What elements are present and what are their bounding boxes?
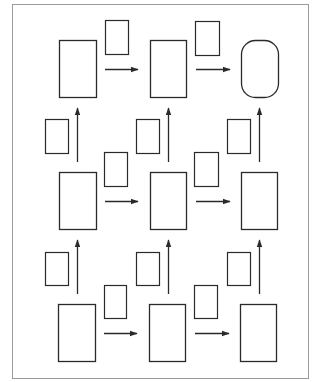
main-boxes — [59, 41, 279, 362]
annotation-box — [196, 22, 220, 56]
annotation-box — [105, 153, 128, 187]
process-box — [151, 41, 187, 98]
annotation-box — [195, 153, 219, 187]
terminal-box — [242, 41, 279, 98]
annotation-box — [137, 120, 160, 154]
annotation-box — [46, 253, 69, 286]
annotation-box — [228, 120, 251, 154]
annotation-box — [137, 253, 160, 286]
process-box — [151, 173, 187, 230]
process-box — [59, 305, 96, 362]
process-box — [150, 305, 186, 362]
annotation-box — [228, 253, 251, 286]
process-box — [241, 305, 277, 362]
process-box — [242, 173, 278, 230]
annotation-box — [105, 286, 127, 319]
annotation-box — [46, 120, 69, 154]
annotation-box — [195, 286, 218, 319]
annotation-box — [106, 21, 129, 55]
small-boxes — [46, 21, 251, 319]
process-box — [60, 41, 97, 98]
flow-diagram — [0, 0, 316, 382]
process-box — [60, 173, 97, 230]
